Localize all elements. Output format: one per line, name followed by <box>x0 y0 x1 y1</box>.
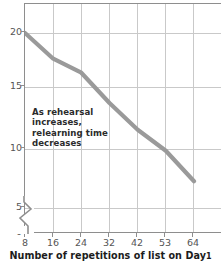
x-tick-label-16: 16 <box>41 238 65 248</box>
x-tick-label-42: 42 <box>125 238 149 248</box>
x-axis-title-text: Number of repetitions of list on Day <box>9 250 206 261</box>
x-tick-label-8: 8 <box>13 238 37 248</box>
y-tick-label-10: 10 <box>4 143 22 153</box>
x-tick-label-32: 32 <box>97 238 121 248</box>
y-tick-mark <box>21 31 25 32</box>
chart-figure: Time in minutes to relearn list on Day 2… <box>0 0 221 266</box>
y-axis-break-icon <box>16 196 34 234</box>
x-tick-label-24: 24 <box>69 238 93 248</box>
annotation-line-3: relearning time <box>32 128 108 138</box>
chart-annotation: As rehearsal increases, relearning time … <box>32 107 108 149</box>
y-tick-mark <box>21 147 25 148</box>
annotation-line-4: decreases <box>32 138 108 148</box>
y-tick-label-20: 20 <box>4 27 22 37</box>
y-tick-label-15: 15 <box>4 81 22 91</box>
annotation-line-1: As rehearsal <box>32 107 108 117</box>
annotation-line-2: increases, <box>32 117 108 127</box>
x-axis-title-day-number: 1 <box>206 252 212 261</box>
x-axis-title: Number of repetitions of list on Day1 <box>0 250 221 261</box>
x-tick-label-53: 53 <box>153 238 177 248</box>
x-tick-label-64: 64 <box>181 238 205 248</box>
y-tick-mark <box>21 85 25 86</box>
